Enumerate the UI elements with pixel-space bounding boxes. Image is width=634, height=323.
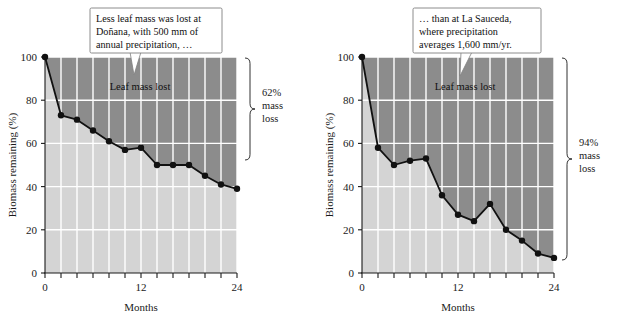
callout-line: … than at La Sauceda, (419, 13, 512, 24)
data-point (42, 54, 48, 60)
data-point (122, 147, 128, 153)
data-point (535, 250, 541, 256)
figure-container: 02040608010001224Biomass remaining (%)Mo… (0, 0, 634, 323)
data-point (407, 157, 413, 163)
bracket-curly (562, 58, 572, 260)
y-tick-label: 0 (349, 267, 355, 279)
y-axis-title: Biomass remaining (%) (323, 112, 336, 217)
data-point (170, 162, 176, 168)
chart-svg-la-sauceda: 02040608010001224Biomass remaining (%)Mo… (317, 0, 634, 323)
x-tick-label: 24 (549, 281, 561, 293)
x-tick-label: 0 (359, 281, 365, 293)
data-point (455, 211, 461, 217)
x-tick-label: 0 (42, 281, 48, 293)
bracket-label-line: loss (262, 113, 278, 124)
chart-panel-la-sauceda: 02040608010001224Biomass remaining (%)Mo… (317, 0, 634, 323)
bracket-curly (245, 58, 255, 160)
y-tick-label: 80 (343, 94, 355, 106)
leaf-mass-lost-label: Leaf mass lost (435, 81, 496, 92)
mass-loss-bracket: 62%massloss (245, 58, 283, 160)
data-point (218, 181, 224, 187)
data-point (58, 112, 64, 118)
x-axis-title: Months (441, 301, 475, 313)
x-tick-label: 24 (232, 281, 244, 293)
y-tick-label: 20 (26, 224, 38, 236)
x-axis-title: Months (124, 301, 158, 313)
bracket-label-line: loss (579, 163, 595, 174)
data-point (391, 162, 397, 168)
y-tick-label: 100 (338, 51, 355, 63)
data-point (202, 173, 208, 179)
bracket-label-line: 94% (579, 137, 599, 148)
y-tick-label: 20 (343, 224, 355, 236)
x-tick-label: 12 (136, 281, 147, 293)
y-axis-title: Biomass remaining (%) (6, 112, 19, 217)
y-tick-label: 60 (343, 137, 355, 149)
bracket-label-line: mass (262, 100, 283, 111)
data-point (90, 127, 96, 133)
bracket-label-line: mass (579, 150, 600, 161)
data-point (359, 54, 365, 60)
leaf-mass-lost-label: Leaf mass lost (110, 81, 171, 92)
callout-line: annual precipitation, … (96, 39, 192, 50)
y-tick-label: 0 (32, 267, 38, 279)
y-tick-label: 80 (26, 94, 38, 106)
data-point (423, 155, 429, 161)
data-point (154, 162, 160, 168)
chart-svg-donana: 02040608010001224Biomass remaining (%)Mo… (0, 0, 317, 323)
data-point (439, 192, 445, 198)
y-tick-label: 60 (26, 137, 38, 149)
callout-line: Less leaf mass was lost at (96, 13, 201, 24)
data-point (138, 145, 144, 151)
callout-line: where precipitation (419, 26, 498, 37)
y-tick-label: 40 (343, 181, 355, 193)
data-point (234, 186, 240, 192)
data-point (551, 255, 557, 261)
data-point (503, 227, 509, 233)
x-tick-label: 12 (453, 281, 464, 293)
chart-panel-donana: 02040608010001224Biomass remaining (%)Mo… (0, 0, 317, 323)
data-point (106, 138, 112, 144)
data-point (74, 116, 80, 122)
data-point (519, 237, 525, 243)
data-point (375, 145, 381, 151)
data-point (471, 218, 477, 224)
data-point (487, 201, 493, 207)
bracket-label-line: 62% (262, 87, 282, 98)
y-tick-label: 100 (21, 51, 38, 63)
mass-loss-bracket: 94%massloss (562, 58, 600, 260)
callout-line: Doñana, with 500 mm of (96, 26, 199, 37)
data-point (186, 162, 192, 168)
y-tick-label: 40 (26, 181, 38, 193)
callout-line: averages 1,600 mm/yr. (419, 39, 512, 50)
